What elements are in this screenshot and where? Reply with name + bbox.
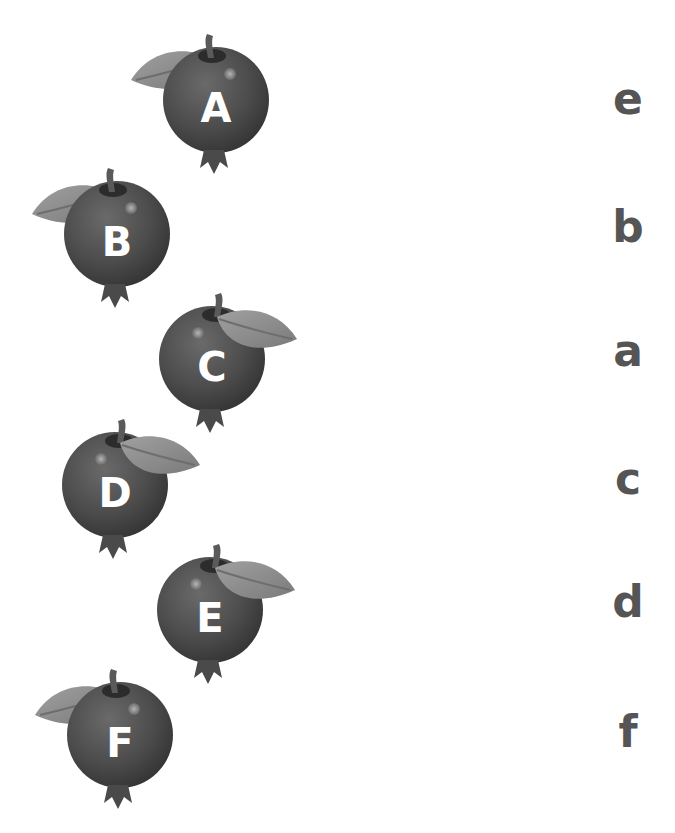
fruit-letter: B bbox=[87, 220, 147, 264]
lowercase-letter-f[interactable]: f bbox=[605, 707, 651, 757]
fruit-letter: F bbox=[90, 721, 150, 765]
fruit-letter: E bbox=[180, 596, 240, 640]
fruit-letter: D bbox=[85, 471, 145, 515]
fruit-f[interactable]: F bbox=[20, 663, 220, 833]
lowercase-letter-c[interactable]: c bbox=[605, 454, 651, 504]
lowercase-letter-d[interactable]: d bbox=[605, 577, 651, 627]
lowercase-letter-e[interactable]: e bbox=[605, 74, 651, 124]
fruit-letter: C bbox=[182, 345, 242, 389]
lowercase-letter-b[interactable]: b bbox=[605, 202, 651, 252]
fruit-letter: A bbox=[186, 86, 246, 130]
lowercase-letter-a[interactable]: a bbox=[605, 326, 651, 376]
